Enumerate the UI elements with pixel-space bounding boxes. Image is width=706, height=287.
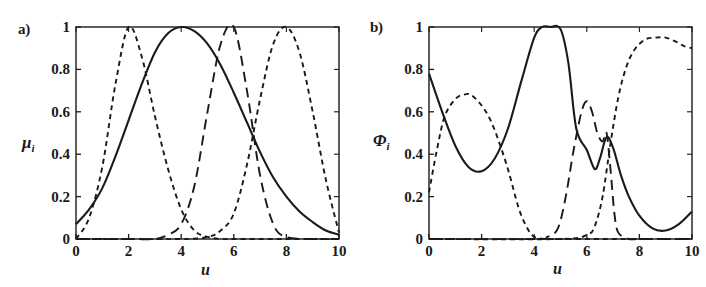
x-tick-label: 10: [685, 244, 700, 259]
series-phi-dash-mid: [429, 101, 692, 239]
x-tick-label: 8: [636, 244, 644, 259]
x-tick-label: 6: [230, 244, 238, 259]
y-tick-label: 0.8: [51, 62, 70, 77]
y-tick-label: 1: [63, 20, 71, 35]
x-tick-label: 8: [283, 244, 291, 259]
panel-a: a) μi u 00.20.40.60.810246810: [0, 0, 353, 287]
x-tick-label: 4: [177, 244, 185, 259]
y-tick-label: 0.4: [51, 147, 70, 162]
x-tick-label: 6: [583, 244, 591, 259]
figure-container: a) μi u 00.20.40.60.810246810 b) Φi u 00…: [0, 0, 706, 287]
series-mu-peak-6-longdash: [76, 24, 339, 239]
series-phi-dash-right: [429, 37, 692, 239]
panel-b: b) Φi u 00.20.40.60.810246810: [353, 0, 706, 287]
x-tick-label: 0: [72, 244, 80, 259]
y-tick-label: 0.2: [51, 189, 70, 204]
y-tick-label: 0.2: [404, 189, 423, 204]
y-tick-label: 0: [416, 232, 424, 247]
x-tick-label: 4: [530, 244, 538, 259]
series-mu-peak-2-shortdash: [76, 26, 339, 239]
series-mu-broad-solid: [76, 27, 339, 235]
x-tick-label: 2: [125, 244, 133, 259]
y-tick-label: 0.6: [404, 104, 423, 119]
x-tick-label: 0: [425, 244, 433, 259]
series-mu-peak-8-shortdash: [76, 27, 339, 239]
plot-frame: [76, 27, 339, 239]
y-tick-label: 0.6: [51, 104, 70, 119]
x-tick-label: 2: [478, 244, 486, 259]
plot-frame: [429, 27, 692, 239]
y-tick-label: 1: [416, 20, 424, 35]
series-phi-solid: [429, 26, 692, 231]
y-tick-label: 0: [63, 232, 71, 247]
y-tick-label: 0.8: [404, 62, 423, 77]
x-tick-label: 10: [332, 244, 347, 259]
y-tick-label: 0.4: [404, 147, 423, 162]
